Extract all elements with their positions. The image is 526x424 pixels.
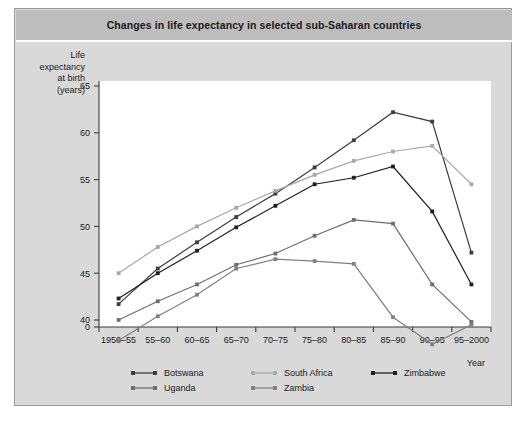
data-point (274, 252, 278, 256)
y-tick-label: 40 (80, 315, 90, 325)
data-point (234, 267, 238, 271)
x-tick-label: 95–2000 (454, 335, 489, 345)
data-point (352, 138, 356, 142)
data-point (117, 302, 121, 306)
chart-title-bar: Changes in life expectancy in selected s… (16, 10, 512, 42)
data-point (195, 249, 199, 253)
x-axis-title: Year (467, 358, 485, 368)
data-point (117, 318, 121, 322)
plot-background (99, 81, 491, 327)
x-tick-label: 80–85 (341, 335, 366, 345)
legend-marker (251, 386, 255, 390)
data-point (352, 159, 356, 163)
y-tick-label: 45 (80, 269, 90, 279)
x-tick-label: 55–60 (145, 335, 170, 345)
data-point (156, 271, 160, 275)
data-point (156, 314, 160, 318)
figure-panel: Changes in life expectancy in selected s… (14, 8, 512, 406)
data-point (430, 283, 434, 287)
y-tick-label: 60 (80, 128, 90, 138)
data-point (156, 245, 160, 249)
legend-label: South Africa (284, 368, 333, 378)
legend-marker (153, 371, 157, 375)
x-tick-label: 60–65 (184, 335, 209, 345)
data-point (156, 267, 160, 271)
data-point (313, 234, 317, 238)
legend-marker (131, 371, 135, 375)
data-point (234, 215, 238, 219)
legend-marker (273, 371, 277, 375)
data-point (391, 222, 395, 226)
data-point (352, 262, 356, 266)
data-point (352, 218, 356, 222)
data-point (274, 204, 278, 208)
data-point (470, 283, 474, 287)
x-tick-label: 65–70 (224, 335, 249, 345)
y-axis-title-line: (years) (57, 85, 85, 95)
y-axis-title-line: at birth (57, 73, 85, 83)
x-tick-label: 70–75 (263, 335, 288, 345)
data-point (470, 323, 474, 327)
plot-area-container: 0404550556065 1950–5555–6060–6565–7070–7… (15, 42, 513, 405)
data-point (430, 342, 434, 346)
legend-item-zambia[interactable]: Zambia (251, 383, 314, 393)
data-point (391, 110, 395, 114)
data-point (391, 165, 395, 169)
legend-marker (251, 371, 255, 375)
x-tick-label: 75–80 (302, 335, 327, 345)
y-axis-title-line: Life (70, 50, 85, 60)
line-chart: 0404550556065 1950–5555–6060–6565–7070–7… (15, 42, 513, 405)
data-point (274, 189, 278, 193)
x-tick-label: 85–90 (380, 335, 405, 345)
legend-label: Zimbabwe (404, 368, 446, 378)
legend-item-zimbabwe[interactable]: Zimbabwe (371, 368, 446, 378)
legend-marker (393, 371, 397, 375)
legend-label: Zambia (284, 383, 314, 393)
legend-marker (131, 386, 135, 390)
data-point (234, 206, 238, 210)
data-point (117, 339, 121, 343)
data-point (274, 257, 278, 261)
y-axis: 0404550556065 (80, 81, 99, 332)
data-point (156, 299, 160, 303)
y-tick-label: 55 (80, 175, 90, 185)
data-point (234, 263, 238, 267)
page-title: Changes in life expectancy in selected s… (107, 19, 422, 31)
data-point (195, 283, 199, 287)
data-point (195, 293, 199, 297)
data-point (352, 176, 356, 180)
legend-item-south-africa[interactable]: South Africa (251, 368, 333, 378)
y-axis-title-line: expectancy (39, 62, 85, 72)
data-point (313, 166, 317, 170)
legend-label: Botswana (164, 368, 204, 378)
data-point (470, 182, 474, 186)
data-point (313, 259, 317, 263)
data-point (391, 150, 395, 154)
data-point (195, 225, 199, 229)
data-point (430, 144, 434, 148)
legend-marker (371, 371, 375, 375)
data-point (117, 271, 121, 275)
chart-legend: BotswanaSouth AfricaZimbabweUgandaZambia (131, 368, 446, 393)
legend-label: Uganda (164, 383, 196, 393)
legend-marker (273, 386, 277, 390)
data-point (195, 240, 199, 244)
data-point (234, 225, 238, 229)
data-point (430, 210, 434, 214)
data-point (313, 173, 317, 177)
data-point (470, 251, 474, 255)
y-tick-label: 50 (80, 222, 90, 232)
data-point (391, 315, 395, 319)
data-point (430, 120, 434, 124)
data-point (117, 297, 121, 301)
legend-item-uganda[interactable]: Uganda (131, 383, 196, 393)
legend-item-botswana[interactable]: Botswana (131, 368, 204, 378)
y-axis-title: Lifeexpectancyat birth(years) (39, 50, 85, 95)
legend-marker (153, 386, 157, 390)
data-point (313, 182, 317, 186)
x-axis: 1950–5555–6060–6565–7070–7575–8080–8585–… (99, 327, 491, 345)
